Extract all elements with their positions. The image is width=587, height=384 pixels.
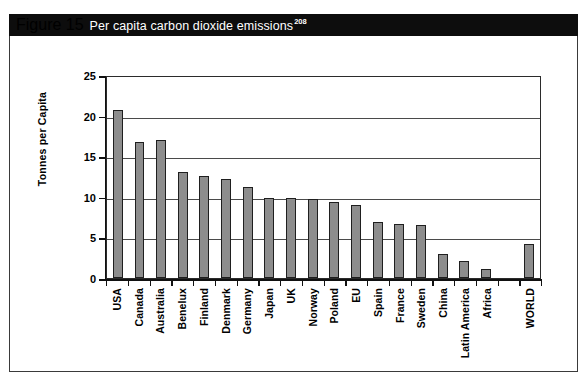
x-label-slot: Sweden	[411, 288, 433, 370]
figure-caption: Per capita carbon dioxide emissions208	[84, 16, 307, 34]
bar	[178, 172, 188, 278]
bar	[308, 199, 318, 278]
bar-slot	[302, 77, 324, 278]
bar-slot	[432, 77, 454, 278]
x-tick-mark	[541, 280, 542, 286]
x-label-slot: Japan	[258, 288, 280, 370]
bar	[113, 110, 123, 278]
y-tick-label: 5	[68, 232, 96, 244]
x-tick-mark	[106, 280, 107, 286]
bar-chart: Tonnes per Capita 0510152025 USACanadaAu…	[10, 36, 577, 370]
x-label-slot: USA	[106, 288, 128, 370]
x-label-slot: UK	[280, 288, 302, 370]
x-label-slot: China	[432, 288, 454, 370]
x-tick-label: Benelux	[176, 288, 188, 330]
bar-slot	[259, 77, 281, 278]
y-tick-mark	[99, 238, 105, 240]
x-tick-label: WORLD	[524, 288, 536, 328]
x-tick-label: Japan	[263, 288, 275, 319]
y-axis-tick-labels: 0510152025	[64, 76, 96, 279]
x-tick-label: Spain	[372, 288, 384, 317]
bar	[156, 140, 166, 278]
x-tick-mark	[498, 280, 499, 286]
bar-slot	[215, 77, 237, 278]
x-label-slot	[498, 288, 520, 370]
bar	[524, 244, 534, 278]
bar-series	[107, 77, 540, 278]
x-tick-mark	[128, 280, 129, 286]
bar	[221, 179, 231, 278]
bar-slot	[367, 77, 389, 278]
y-tick-label: 25	[68, 70, 96, 82]
y-tick-mark	[99, 117, 105, 119]
x-tick-mark	[258, 280, 259, 286]
bar	[459, 261, 469, 278]
x-tick-label: USA	[111, 288, 123, 310]
figure-number: Figure 15	[16, 16, 84, 34]
x-tick-mark	[476, 280, 477, 286]
x-label-slot: Poland	[324, 288, 346, 370]
x-label-slot: Benelux	[171, 288, 193, 370]
x-label-slot: France	[389, 288, 411, 370]
x-tick-label: Africa	[481, 288, 493, 318]
bar	[394, 224, 404, 278]
bar-slot	[150, 77, 172, 278]
x-label-slot: Africa	[476, 288, 498, 370]
bar-slot	[410, 77, 432, 278]
x-label-slot: WORLD	[519, 288, 541, 370]
bar-slot	[280, 77, 302, 278]
x-axis-ticks	[106, 280, 541, 287]
bar-slot	[107, 77, 129, 278]
bar-slot	[129, 77, 151, 278]
y-tick-label: 20	[68, 111, 96, 123]
bar	[135, 142, 145, 278]
x-tick-mark	[215, 280, 216, 286]
x-tick-label: China	[437, 288, 449, 318]
x-tick-mark	[150, 280, 151, 286]
x-label-slot: EU	[345, 288, 367, 370]
x-tick-label: Denmark	[220, 288, 232, 334]
bar-slot	[497, 77, 519, 278]
figure-header-bar: Figure 15 Per capita carbon dioxide emis…	[9, 14, 578, 36]
x-tick-mark	[345, 280, 346, 286]
y-tick-mark	[99, 279, 105, 281]
x-tick-label: Finland	[198, 288, 210, 326]
y-axis-title: Tonnes per Capita	[36, 69, 48, 209]
y-tick-label: 10	[68, 192, 96, 204]
x-label-slot: Canada	[128, 288, 150, 370]
x-axis-tick-labels: USACanadaAustraliaBeneluxFinlandDenmarkG…	[106, 288, 541, 370]
bar	[329, 202, 339, 278]
x-label-slot: Germany	[237, 288, 259, 370]
x-tick-mark	[389, 280, 390, 286]
x-tick-label: Australia	[154, 288, 166, 334]
bar	[416, 225, 426, 278]
figure-caption-text: Per capita carbon dioxide emissions	[90, 19, 294, 33]
figure-body: Tonnes per Capita 0510152025 USACanadaAu…	[9, 36, 578, 372]
bar	[243, 187, 253, 278]
x-tick-mark	[432, 280, 433, 286]
x-tick-mark	[302, 280, 303, 286]
x-label-slot: Australia	[150, 288, 172, 370]
bar-slot	[518, 77, 540, 278]
figure-container: Figure 15 Per capita carbon dioxide emis…	[9, 14, 578, 372]
figure-footnote-marker: 208	[294, 17, 307, 26]
y-tick-mark	[99, 198, 105, 200]
x-tick-label: Sweden	[415, 288, 427, 328]
bar	[351, 205, 361, 278]
x-tick-label: Latin America	[459, 288, 471, 358]
x-tick-label: Germany	[241, 288, 253, 334]
x-tick-mark	[519, 280, 520, 286]
bar-slot	[324, 77, 346, 278]
bar-slot	[345, 77, 367, 278]
x-label-slot: Spain	[367, 288, 389, 370]
x-tick-label: Canada	[133, 288, 145, 327]
x-tick-mark	[193, 280, 194, 286]
x-tick-mark	[367, 280, 368, 286]
x-label-slot: Latin America	[454, 288, 476, 370]
y-tick-mark	[99, 157, 105, 159]
x-tick-label: EU	[350, 288, 362, 303]
bar	[199, 176, 209, 278]
plot-area	[106, 76, 541, 279]
x-tick-label: France	[394, 288, 406, 323]
bar-slot	[237, 77, 259, 278]
